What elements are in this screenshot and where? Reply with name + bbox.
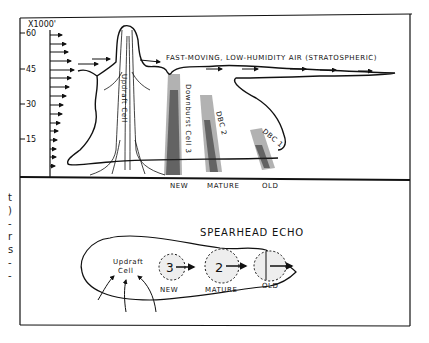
downburst-cell-3-label: Downburst Cell 3 [184,84,192,154]
tick-60: 60 [26,29,36,38]
echo-cell-2: 2 [205,249,246,283]
echo-new-label: NEW [160,286,178,294]
stage-mature-label: MATURE [207,182,240,190]
updraft-cell-label-line2: Cell [118,267,133,275]
tick-30: 30 [26,100,36,109]
caption-fragment: r [8,231,12,242]
axis-unit-label: X1000' [28,20,56,29]
downburst-diagram: X1000' 60 45 30 15 [0,0,429,343]
stage-new-label: NEW [170,182,188,190]
caption-fragment: - [8,270,12,281]
updraft-cell-label: Updraft Cell [120,74,128,123]
airflow-label: FAST-MOVING, LOW-HUMIDITY AIR (STRATOSPH… [166,54,377,62]
echo-cell-1 [254,251,292,281]
caption-fragment: - [8,257,12,268]
updraft-cell-label-line1: Updraft [113,258,143,266]
caption-fragment: s [8,244,13,255]
storm-cloud-outline [68,26,395,165]
caption-fragment: t [8,192,12,203]
wind-profile-arrows [50,35,160,166]
spearhead-echo-title: SPEARHEAD ECHO [200,227,304,238]
axis-tick-labels: X1000' 60 45 30 15 [26,20,56,144]
echo-cell-3: 3 [159,254,194,280]
echo-old-label: OLD [262,282,279,290]
tick-15: 15 [26,135,36,144]
echo-cell-3-number: 3 [166,261,174,275]
tick-45: 45 [26,65,36,74]
caption-fragment: - [8,218,12,229]
diagram-canvas: X1000' 60 45 30 15 [0,0,429,343]
echo-mature-label: MATURE [205,286,238,294]
echo-cell-2-number: 2 [215,260,223,275]
caption-fragment: ) [8,205,12,216]
stage-old-label: OLD [262,182,279,190]
